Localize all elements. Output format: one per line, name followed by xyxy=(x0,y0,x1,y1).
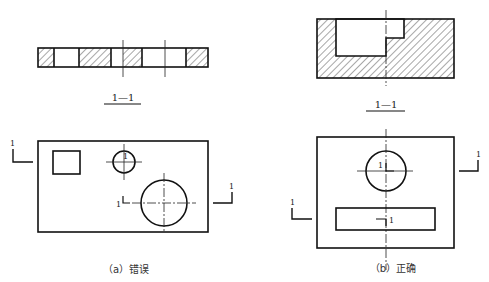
caption-a: （a）错误 xyxy=(103,263,149,275)
square-hole xyxy=(53,151,80,174)
hatched-region xyxy=(123,48,142,67)
panel-b-section-view xyxy=(317,10,454,86)
panel-a-section-view xyxy=(38,40,208,77)
cut-mark-label: 1 xyxy=(116,200,121,209)
panel-b-section-label: 1—1 xyxy=(366,99,405,111)
plan-outline xyxy=(317,137,454,248)
cut-mark xyxy=(386,163,394,171)
cut-mark xyxy=(123,196,130,203)
cut-mark xyxy=(292,208,312,219)
cut-mark-label: 1 xyxy=(10,139,15,148)
cut-mark-label: 1 xyxy=(476,150,481,159)
cut-mark xyxy=(213,192,232,203)
panel-a-plan-view: 1 1 1 1 xyxy=(10,139,234,233)
hatched-region xyxy=(79,48,111,67)
cut-mark xyxy=(459,160,478,171)
cut-mark-label: 1 xyxy=(123,152,128,161)
cut-mark-label: 1 xyxy=(378,161,383,170)
section-label-text: 1—1 xyxy=(112,92,135,103)
panel-a-section-label: 1—1 xyxy=(104,92,141,104)
caption-b: （b）正确 xyxy=(370,262,416,274)
drawing-canvas: 1—1 1 1 1 1 （a）错误 1—1 xyxy=(0,0,489,282)
cut-mark-label: 1 xyxy=(290,198,295,207)
cut-mark-label: 1 xyxy=(389,216,394,225)
hatched-region xyxy=(38,48,54,67)
cut-mark xyxy=(376,219,386,226)
section-label-text: 1—1 xyxy=(375,99,398,110)
hatched-region xyxy=(186,48,208,67)
panel-b-plan-view: 1 1 1 1 xyxy=(290,129,481,270)
cut-mark xyxy=(13,149,33,162)
cut-mark-label: 1 xyxy=(229,182,234,191)
